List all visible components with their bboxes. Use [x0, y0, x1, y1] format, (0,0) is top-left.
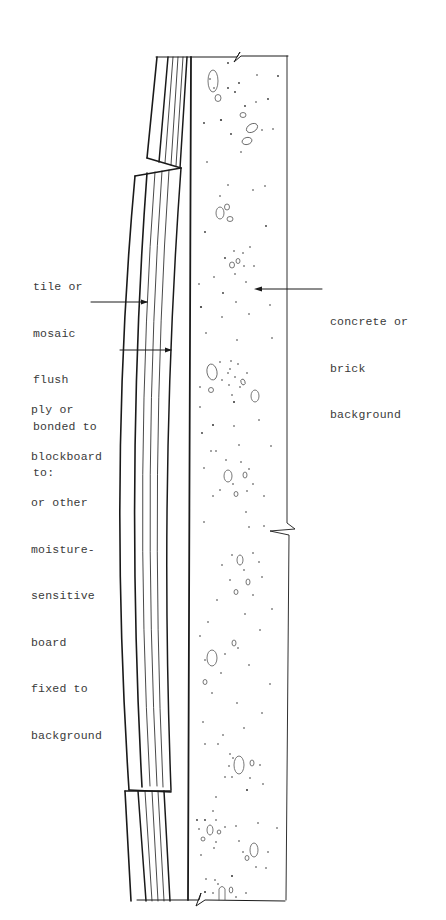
label-ply-or-blockboard: ply or blockboard or other moisture- sen… [31, 371, 102, 774]
diagram-canvas: tile or mosaic flush bonded to to: ply o… [0, 0, 446, 920]
board-segment-top [147, 57, 187, 168]
label-line: concrete or [330, 314, 408, 330]
label-line: or other [31, 495, 102, 511]
label-line: blockboard [31, 449, 102, 465]
label-line: brick [330, 361, 408, 377]
concrete-wall [137, 52, 295, 906]
arrowheads [141, 287, 262, 353]
label-line: background [330, 407, 408, 423]
label-line: board [31, 635, 102, 651]
label-line: moisture- [31, 542, 102, 558]
label-line: tile or [33, 279, 97, 295]
aggregate-stones [201, 70, 259, 901]
label-line: fixed to [31, 681, 102, 697]
label-line: sensitive [31, 588, 102, 604]
label-line: ply or [31, 402, 102, 418]
label-line: background [31, 728, 102, 744]
board-segment-bowed [120, 168, 181, 792]
aggregate-speckle [196, 62, 279, 898]
label-line: mosaic [33, 326, 97, 342]
board-segment-bottom [125, 791, 171, 901]
label-concrete-or-brick: concrete or brick background [330, 283, 408, 454]
